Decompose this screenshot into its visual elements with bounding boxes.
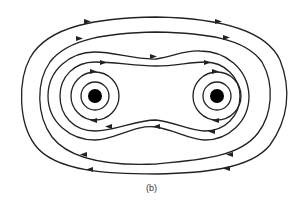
arrow-icon bbox=[90, 69, 97, 74]
left-wire-conductor bbox=[88, 89, 102, 103]
arrow-icon bbox=[100, 60, 107, 65]
arrow-icon bbox=[86, 167, 93, 172]
field-line-outer-2 bbox=[40, 32, 271, 164]
right-wire-conductor bbox=[210, 89, 224, 103]
figure-caption: (b) bbox=[0, 183, 303, 193]
arrow-icon bbox=[76, 36, 83, 41]
arrow-icon bbox=[153, 124, 160, 129]
arrow-icon bbox=[105, 124, 112, 129]
arrow-icon bbox=[212, 118, 219, 123]
arrow-icon bbox=[212, 69, 219, 74]
arrow-icon bbox=[223, 166, 230, 171]
arrow-icon bbox=[90, 118, 97, 123]
field-lines-diagram bbox=[0, 0, 303, 212]
arrow-icon bbox=[208, 129, 215, 134]
arrow-icon bbox=[204, 60, 211, 65]
field-line-outer-1 bbox=[22, 17, 287, 174]
arrow-icon bbox=[150, 54, 157, 59]
